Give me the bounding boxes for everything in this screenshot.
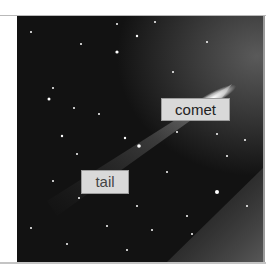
star — [191, 233, 193, 235]
star — [30, 31, 32, 33]
star — [78, 197, 80, 199]
star — [124, 137, 126, 139]
star — [216, 133, 218, 135]
frame-bottom-rule — [0, 262, 266, 264]
star — [30, 227, 32, 229]
star — [52, 87, 54, 89]
star — [73, 107, 75, 109]
star — [151, 229, 153, 231]
star — [66, 243, 68, 245]
star — [116, 23, 118, 25]
star — [76, 153, 78, 155]
star — [52, 180, 54, 182]
star — [136, 35, 138, 37]
star — [215, 190, 219, 194]
star — [244, 139, 246, 141]
star — [206, 41, 208, 43]
starfield — [17, 16, 265, 262]
comet-photograph: comet tail — [17, 16, 265, 262]
star — [80, 43, 82, 45]
star — [137, 144, 141, 148]
star — [154, 21, 156, 23]
star — [48, 98, 51, 101]
star — [226, 155, 228, 157]
star — [166, 171, 168, 173]
star — [126, 249, 128, 251]
star — [246, 205, 248, 207]
star — [186, 215, 188, 217]
star — [136, 205, 138, 207]
star — [106, 225, 108, 227]
star — [176, 131, 178, 133]
star — [115, 50, 118, 53]
star — [61, 135, 63, 137]
tail-label: tail — [81, 170, 129, 194]
comet-label: comet — [161, 98, 230, 121]
star — [172, 71, 174, 73]
star — [98, 113, 100, 115]
ion-tail-band — [167, 166, 265, 262]
